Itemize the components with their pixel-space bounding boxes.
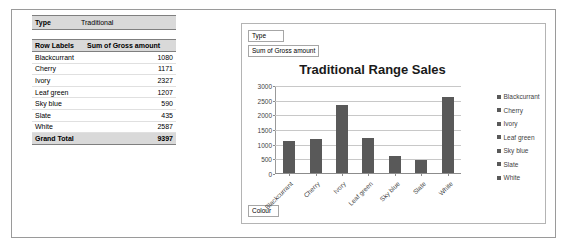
bar-slot <box>329 86 355 173</box>
y-axis-tick-mark <box>273 145 275 146</box>
header-row-labels[interactable]: Row Labels <box>32 40 84 52</box>
y-axis-tick-mark <box>273 174 275 175</box>
table-row[interactable]: Cherry1171 <box>32 63 176 75</box>
table-row[interactable]: Slate435 <box>32 109 176 121</box>
y-axis-tick-label: 1500 <box>258 127 272 134</box>
x-axis-tick-label: Ivory <box>332 180 347 195</box>
bar[interactable] <box>283 141 295 173</box>
x-axis-tick-label: Slate <box>412 180 427 195</box>
y-axis-tick-label: 500 <box>261 156 272 163</box>
row-label-cell: Cherry <box>32 63 84 75</box>
legend-label: Leaf green <box>504 134 535 141</box>
pivot-chart-panel[interactable]: Type Sum of Gross amount Colour Traditio… <box>241 23 546 224</box>
pivot-filter-value[interactable]: Traditional <box>81 19 176 26</box>
field-button-colour[interactable]: Colour <box>248 205 279 217</box>
bar[interactable] <box>442 97 454 173</box>
legend-label: Slate <box>504 161 519 168</box>
row-label-cell: Ivory <box>32 75 84 87</box>
table-header-row: Row Labels Sum of Gross amount <box>32 40 176 52</box>
y-axis-tick-mark <box>273 159 275 160</box>
grand-total-value: 9397 <box>84 133 176 145</box>
table-spacer <box>32 30 176 39</box>
table-row[interactable]: Blackcurrant1080 <box>32 52 176 64</box>
bar[interactable] <box>415 160 427 173</box>
row-label-cell: Slate <box>32 109 84 121</box>
legend-item[interactable]: Cherry <box>497 104 541 118</box>
y-axis-tick-label: 0 <box>268 171 272 178</box>
bar-slot <box>355 86 381 173</box>
bar-series <box>276 86 461 173</box>
y-axis-tick-label: 2500 <box>258 97 272 104</box>
y-axis-tick-mark <box>273 101 275 102</box>
legend-swatch-icon <box>497 162 501 166</box>
x-axis-labels: BlackcurrantCherryIvoryLeaf greenSky blu… <box>276 176 462 218</box>
x-axis-tick-label: White <box>437 180 454 197</box>
chart-legend: BlackcurrantCherryIvoryLeaf greenSky blu… <box>497 90 541 185</box>
legend-swatch-icon <box>497 108 501 112</box>
row-label-cell: Leaf green <box>32 86 84 98</box>
table-row[interactable]: White2587 <box>32 121 176 133</box>
legend-item[interactable]: Slate <box>497 158 541 172</box>
y-axis-tick-mark <box>273 86 275 87</box>
legend-swatch-icon <box>497 176 501 180</box>
row-label-cell: Blackcurrant <box>32 52 84 64</box>
row-value-cell: 590 <box>84 98 176 110</box>
row-value-cell: 1171 <box>84 63 176 75</box>
table-row[interactable]: Leaf green1207 <box>32 86 176 98</box>
field-button-type[interactable]: Type <box>248 30 284 42</box>
field-button-sum-of-gross-amount[interactable]: Sum of Gross amount <box>248 45 319 57</box>
document-frame: Type Traditional Row Labels Sum of Gross… <box>11 9 556 238</box>
legend-item[interactable]: Blackcurrant <box>497 90 541 104</box>
legend-label: White <box>504 174 521 181</box>
x-axis-tick-label: Sky blue <box>378 180 401 203</box>
legend-item[interactable]: Ivory <box>497 117 541 131</box>
chart-title: Traditional Range Sales <box>242 62 545 77</box>
table-row[interactable]: Ivory2327 <box>32 75 176 87</box>
row-value-cell: 2587 <box>84 121 176 133</box>
legend-swatch-icon <box>497 122 501 126</box>
bar[interactable] <box>389 156 401 173</box>
pivot-filter-label: Type <box>32 19 81 26</box>
row-label-cell: White <box>32 121 84 133</box>
bar[interactable] <box>310 139 322 173</box>
legend-label: Ivory <box>504 120 518 127</box>
legend-item[interactable]: White <box>497 171 541 185</box>
pivot-table: Type Traditional Row Labels Sum of Gross… <box>32 15 176 145</box>
legend-label: Blackcurrant <box>504 93 540 100</box>
x-axis-tick-label: Leaf green <box>347 180 374 207</box>
grand-total-label: Grand Total <box>32 133 84 145</box>
legend-swatch-icon <box>497 95 501 99</box>
y-axis-tick-mark <box>273 130 275 131</box>
header-sum-gross-amount[interactable]: Sum of Gross amount <box>84 40 176 52</box>
legend-swatch-icon <box>497 135 501 139</box>
x-axis-tick-label: Blackcurrant <box>264 180 294 210</box>
table-row[interactable]: Sky blue590 <box>32 98 176 110</box>
bar-slot <box>382 86 408 173</box>
legend-label: Cherry <box>504 107 524 114</box>
pivot-data-table: Row Labels Sum of Gross amount Blackcurr… <box>32 39 176 145</box>
legend-label: Sky blue <box>504 147 529 154</box>
bar-slot <box>276 86 302 173</box>
bar-slot <box>408 86 434 173</box>
y-axis-tick-label: 3000 <box>258 83 272 90</box>
chart-plot-area: 050010001500200025003000 <box>275 86 461 174</box>
row-value-cell: 1207 <box>84 86 176 98</box>
row-value-cell: 1080 <box>84 52 176 64</box>
y-axis-tick-label: 1000 <box>258 141 272 148</box>
legend-item[interactable]: Leaf green <box>497 131 541 145</box>
grand-total-row: Grand Total9397 <box>32 133 176 145</box>
legend-item[interactable]: Sky blue <box>497 144 541 158</box>
bar[interactable] <box>362 138 374 173</box>
bar[interactable] <box>336 105 348 173</box>
y-axis-tick-mark <box>273 115 275 116</box>
row-label-cell: Sky blue <box>32 98 84 110</box>
legend-swatch-icon <box>497 149 501 153</box>
y-axis-tick-label: 2000 <box>258 112 272 119</box>
row-value-cell: 2327 <box>84 75 176 87</box>
bar-slot <box>302 86 328 173</box>
bar-slot <box>435 86 461 173</box>
x-axis-tick-label: Cherry <box>302 180 321 199</box>
row-value-cell: 435 <box>84 109 176 121</box>
pivot-filter-row[interactable]: Type Traditional <box>32 15 176 30</box>
